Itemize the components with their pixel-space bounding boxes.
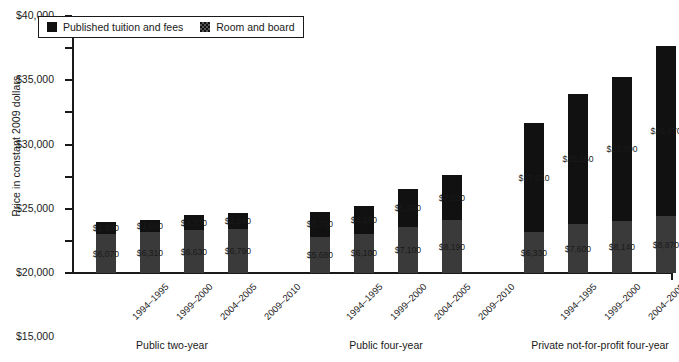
bar-segment-tuition: $5,900 [398, 189, 418, 227]
x-axis-end-cap [671, 272, 673, 280]
x-axis-group-label: Private not-for-profit four-year [531, 339, 669, 351]
bar-value-label-room-board: $7,100 [395, 245, 421, 255]
bar-series-container: $1,880$6,070$1,960$6,310$2,330$6,630$2,5… [72, 16, 672, 273]
bar-stack[interactable]: $5,900$7,100 [398, 189, 418, 273]
plot-area: $0$5,000$10,000$15,000$20,000$25,000$30,… [72, 16, 672, 273]
y-axis-tick-label: $15,000 [0, 330, 54, 342]
bar-segment-room-board: $7,600 [568, 224, 588, 273]
legend-swatch-tuition-icon [47, 22, 57, 32]
bar-value-label-room-board: $8,140 [609, 242, 635, 252]
bar-segment-room-board: $8,870 [656, 216, 676, 273]
bar-value-label-room-board: $7,600 [565, 244, 591, 254]
bar-value-label-tuition: $1,960 [137, 221, 163, 231]
bar-value-label-tuition: $3,760 [307, 219, 333, 229]
bar-segment-tuition: $2,540 [228, 213, 248, 229]
bar-stack[interactable]: $7,020$8,190 [442, 175, 462, 273]
bar-value-label-tuition: $26,470 [650, 126, 679, 136]
bar-stack[interactable]: $22,390$8,140 [612, 77, 632, 273]
legend-label-room-board: Room and board [216, 21, 294, 33]
x-axis-group-label: Public two-year [136, 339, 208, 351]
bar-segment-tuition: $1,960 [140, 220, 160, 233]
y-axis-tick: $5,000 [65, 240, 72, 242]
bar-segment-room-board: $7,100 [398, 227, 418, 273]
bar-segment-tuition: $4,290 [354, 206, 374, 234]
bar-stack[interactable]: $2,330$6,630 [184, 215, 204, 273]
x-axis-tick-label: 1994–1995 [344, 281, 385, 322]
x-axis-tick-label: 2004–2005 [218, 281, 259, 322]
bar-stack[interactable]: $4,290$6,100 [354, 206, 374, 273]
bar-stack[interactable]: $26,470$8,870 [656, 46, 676, 273]
bar-stack[interactable]: $3,760$5,680 [310, 212, 330, 273]
bar-value-label-tuition: $2,540 [225, 216, 251, 226]
x-axis-tick-label: 1994–1995 [558, 281, 599, 322]
y-axis-tick: $20,000 [65, 144, 72, 146]
bar-segment-room-board: $8,140 [612, 221, 632, 273]
x-axis-group-label: Public four-year [349, 339, 423, 351]
bar-value-label-tuition: $5,900 [395, 203, 421, 213]
bar-segment-room-board: $6,630 [184, 230, 204, 273]
bar-segment-room-board: $6,330 [524, 232, 544, 273]
bar-value-label-tuition: $7,020 [439, 193, 465, 203]
bar-value-label-room-board: $8,190 [439, 242, 465, 252]
bar-segment-tuition: $1,880 [96, 222, 116, 234]
bar-value-label-tuition: $20,250 [562, 154, 593, 164]
legend-label-tuition: Published tuition and fees [63, 21, 183, 33]
bar-value-label-room-board: $6,330 [521, 248, 547, 258]
y-axis-tick: $30,000 [65, 79, 72, 81]
bar-value-label-room-board: $8,870 [653, 240, 679, 250]
legend-swatch-room-board-icon [200, 22, 210, 32]
bar-segment-tuition: $2,330 [184, 215, 204, 230]
bar-value-label-room-board: $6,070 [93, 249, 119, 259]
x-axis-tick-label: 2004–2005 [646, 281, 679, 322]
y-axis-tick: $0 [65, 272, 72, 274]
chart-legend: Published tuition and fees Room and boar… [38, 16, 304, 38]
tuition-cost-chart: Price in constant 2009 dollars $0$5,000$… [0, 0, 679, 362]
x-axis-tick-label: 2009–2010 [262, 281, 303, 322]
bar-segment-tuition: $20,250 [568, 94, 588, 224]
bar-value-label-room-board: $6,100 [351, 248, 377, 258]
y-axis-tick-label: $30,000 [0, 138, 54, 150]
legend-item-tuition: Published tuition and fees [47, 21, 183, 33]
bar-value-label-room-board: $6,310 [137, 248, 163, 258]
bar-value-label-room-board: $6,630 [181, 247, 207, 257]
bar-segment-tuition: $3,760 [310, 212, 330, 236]
bar-segment-tuition: $17,010 [524, 123, 544, 232]
bar-segment-room-board: $6,100 [354, 234, 374, 273]
x-axis-tick-label: 1994–1995 [130, 281, 171, 322]
bar-segment-tuition: $26,470 [656, 46, 676, 216]
x-axis-tick-label: 2004–2005 [432, 281, 473, 322]
bar-stack[interactable]: $20,250$7,600 [568, 94, 588, 273]
y-axis-tick-label: $25,000 [0, 202, 54, 214]
x-axis-tick-label: 2009–2010 [476, 281, 517, 322]
bar-value-label-room-board: $6,790 [225, 246, 251, 256]
bar-segment-room-board: $6,790 [228, 229, 248, 273]
y-axis-tick-label: $20,000 [0, 266, 54, 278]
y-axis-tick: $25,000 [65, 111, 72, 113]
y-axis-tick: $35,000 [65, 47, 72, 49]
bar-value-label-tuition: $4,290 [351, 215, 377, 225]
legend-item-room-board: Room and board [200, 21, 294, 33]
bar-stack[interactable]: $17,010$6,330 [524, 123, 544, 273]
bar-value-label-room-board: $5,680 [307, 250, 333, 260]
x-axis-tick-label: 1999–2000 [602, 281, 643, 322]
bar-stack[interactable]: $2,540$6,790 [228, 213, 248, 273]
y-axis-tick: $15,000 [65, 176, 72, 178]
y-axis-tick-label: $35,000 [0, 73, 54, 85]
bar-segment-room-board: $6,310 [140, 232, 160, 273]
bar-value-label-tuition: $2,330 [181, 218, 207, 228]
y-axis-tick: $10,000 [65, 208, 72, 210]
x-axis-tick-label: 1999–2000 [174, 281, 215, 322]
x-axis-tick-label: 1999–2000 [388, 281, 429, 322]
bar-segment-room-board: $6,070 [96, 234, 116, 273]
bar-value-label-tuition: $22,390 [606, 144, 637, 154]
bar-stack[interactable]: $1,960$6,310 [140, 220, 160, 273]
bar-value-label-tuition: $17,010 [518, 173, 549, 183]
bar-segment-tuition: $7,020 [442, 175, 462, 220]
bar-segment-room-board: $5,680 [310, 237, 330, 273]
bar-value-label-tuition: $1,880 [93, 223, 119, 233]
bar-segment-tuition: $22,390 [612, 77, 632, 221]
bar-segment-room-board: $8,190 [442, 220, 462, 273]
bar-stack[interactable]: $1,880$6,070 [96, 222, 116, 273]
